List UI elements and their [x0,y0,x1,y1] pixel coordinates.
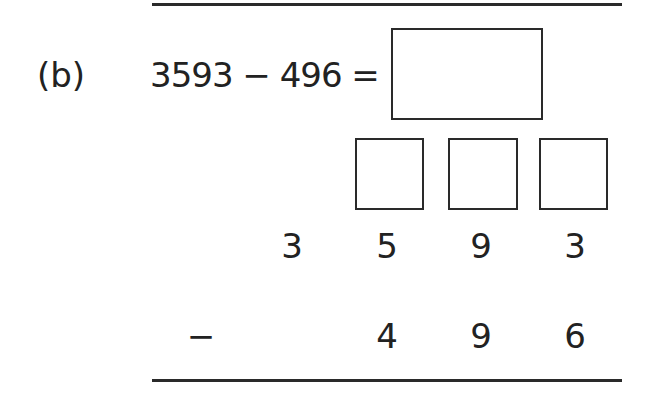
exchange-box-ones[interactable] [539,138,608,210]
equation-text: 3593 − 496 = [150,55,379,95]
minuend-hundreds: 5 [367,226,407,266]
answer-line [152,379,622,382]
subtrahend-hundreds: 4 [367,316,407,356]
minuend-thousands: 3 [272,226,312,266]
answer-box[interactable] [391,28,543,120]
top-divider [152,3,622,6]
subtrahend-ones: 6 [555,316,595,356]
subtrahend-tens: 9 [461,316,501,356]
exchange-box-tens[interactable] [448,138,518,210]
exchange-box-hundreds[interactable] [355,138,424,210]
question-label: (b) [37,55,85,95]
minus-operator: − [181,316,221,356]
minuend-tens: 9 [461,226,501,266]
minuend-ones: 3 [555,226,595,266]
